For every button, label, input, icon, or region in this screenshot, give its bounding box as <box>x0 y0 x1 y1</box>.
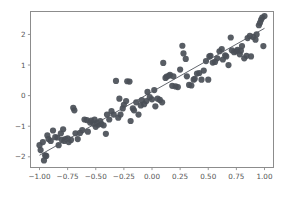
data-point <box>188 82 194 88</box>
data-point <box>248 53 254 59</box>
data-point <box>103 131 109 137</box>
data-point <box>128 118 134 124</box>
data-point <box>159 99 165 105</box>
x-tick-label: 0.50 <box>200 172 216 181</box>
y-tick-label: 2 <box>21 30 26 39</box>
y-tick-label: −1 <box>15 122 26 131</box>
data-point <box>40 139 46 145</box>
data-point <box>50 127 56 133</box>
data-point <box>43 153 49 159</box>
data-point <box>175 84 181 90</box>
x-tick-label: −1.00 <box>28 172 50 181</box>
x-tick-label: 0.25 <box>172 172 188 181</box>
x-tick-labels: −1.00−0.75−0.50−0.250.000.250.500.751.00 <box>28 172 272 181</box>
y-tick-label: −2 <box>15 152 26 161</box>
data-point <box>184 73 190 79</box>
data-point <box>228 34 234 40</box>
data-point <box>117 111 123 117</box>
data-point <box>123 98 129 104</box>
data-point <box>135 111 141 117</box>
data-point <box>223 53 229 59</box>
x-tick-label: 0.75 <box>228 172 244 181</box>
scatter-plot-figure: −1.00−0.75−0.50−0.250.000.250.500.751.00… <box>0 0 288 198</box>
data-point <box>60 126 66 132</box>
data-point <box>113 78 119 84</box>
x-tick-label: −0.75 <box>57 172 79 181</box>
x-tick-label: 1.00 <box>256 172 272 181</box>
data-point <box>152 103 158 109</box>
data-point <box>201 67 207 73</box>
data-point <box>261 13 267 19</box>
x-tick-label: 0.00 <box>144 172 160 181</box>
data-point <box>75 136 81 142</box>
data-point <box>179 43 185 49</box>
y-tick-label: 0 <box>21 91 26 100</box>
data-point <box>160 60 166 66</box>
data-point <box>252 37 258 43</box>
data-point <box>177 67 183 73</box>
data-point <box>225 62 231 68</box>
data-point <box>71 107 77 113</box>
chart-canvas: −1.00−0.75−0.50−0.250.000.250.500.751.00… <box>0 0 288 198</box>
data-point <box>116 96 122 102</box>
data-point <box>198 77 204 83</box>
data-point <box>239 43 245 49</box>
data-point <box>180 50 186 56</box>
x-tick-label: −0.50 <box>85 172 107 181</box>
data-point <box>131 107 137 113</box>
data-point <box>38 147 44 153</box>
y-tick-label: 1 <box>21 61 26 70</box>
data-point <box>126 78 132 84</box>
data-point <box>183 56 189 62</box>
data-point <box>149 96 155 102</box>
data-point <box>101 122 107 128</box>
data-point <box>260 43 266 49</box>
data-point <box>205 77 211 83</box>
x-tick-label: −0.25 <box>113 172 135 181</box>
